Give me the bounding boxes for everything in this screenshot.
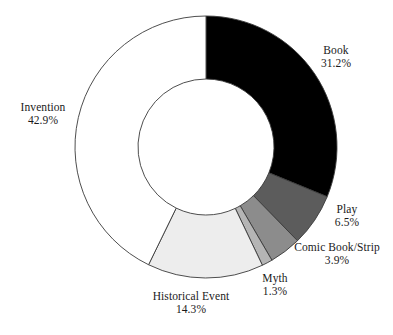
slice-label-book-name: Book — [300, 44, 372, 57]
slice-label-play-name: Play — [318, 203, 376, 216]
slice-label-book-value: 31.2% — [300, 57, 372, 70]
slice-label-comic-book-strip-value: 3.9% — [281, 254, 393, 267]
slice-label-historical-event: Historical Event 14.3% — [133, 290, 249, 316]
slice-label-invention-value: 42.9% — [4, 114, 82, 127]
slice-label-invention-name: Invention — [4, 101, 82, 114]
slice-label-myth: Myth 1.3% — [248, 272, 302, 298]
slice-label-book: Book 31.2% — [300, 44, 372, 70]
slice-label-historical-event-name: Historical Event — [133, 290, 249, 303]
slice-label-comic-book-strip: Comic Book/Strip 3.9% — [281, 241, 393, 267]
donut-chart: Book 31.2% Play 6.5% Comic Book/Strip 3.… — [0, 0, 393, 335]
slice-label-comic-book-strip-name: Comic Book/Strip — [281, 241, 393, 254]
slice-label-invention: Invention 42.9% — [4, 101, 82, 127]
slice-label-play-value: 6.5% — [318, 216, 376, 229]
slice-label-play: Play 6.5% — [318, 203, 376, 229]
slice-label-myth-value: 1.3% — [248, 285, 302, 298]
slice-label-myth-name: Myth — [248, 272, 302, 285]
donut-slices — [75, 16, 337, 278]
slice-label-historical-event-value: 14.3% — [133, 303, 249, 316]
